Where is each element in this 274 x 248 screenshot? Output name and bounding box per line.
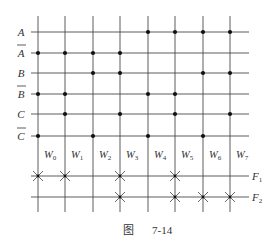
connection-dot — [201, 71, 205, 75]
word-line-label-w0: W0 — [44, 149, 57, 162]
caption-prefix: 图 — [123, 224, 134, 236]
input-label-c-bar: C — [17, 130, 25, 142]
connection-dot — [36, 134, 40, 138]
connection-dot — [228, 112, 232, 116]
input-label-c: C — [17, 108, 25, 120]
word-line-label-w3: W3 — [126, 149, 139, 162]
connection-dot — [91, 71, 95, 75]
connection-dot — [173, 30, 177, 34]
word-line-label-w6: W6 — [209, 149, 222, 162]
input-label-a: A — [17, 26, 25, 38]
connection-dot — [201, 134, 205, 138]
input-lines — [31, 32, 249, 136]
word-line-label-w1: W1 — [71, 149, 84, 162]
input-label-b-bar: B — [18, 88, 25, 100]
output-label-f2: F2 — [251, 191, 263, 205]
input-label-a-bar: A — [17, 47, 25, 59]
connection-dot — [201, 30, 205, 34]
output-lines — [31, 176, 249, 197]
connection-dot — [63, 112, 67, 116]
word-line-label-w7: W7 — [236, 149, 249, 162]
rom-array-svg: W0W1W2W3W4W5W6W7AABBCCF1F2 图 7-14 — [0, 0, 274, 248]
word-line-label-w4: W4 — [154, 149, 167, 162]
output-label-f1: F1 — [251, 170, 263, 184]
connection-dot — [228, 71, 232, 75]
input-label-b: B — [18, 67, 25, 79]
connection-dot — [36, 92, 40, 96]
connection-dot — [146, 92, 150, 96]
connection-dot — [63, 92, 67, 96]
connection-dot — [36, 51, 40, 55]
connection-dot — [118, 51, 122, 55]
connection-dot — [146, 30, 150, 34]
connection-dot — [91, 51, 95, 55]
word-line-label-w2: W2 — [99, 149, 112, 162]
connection-dot — [63, 51, 67, 55]
connection-dot — [91, 134, 95, 138]
connection-dot — [118, 71, 122, 75]
caption-number: 7-14 — [152, 224, 173, 236]
connection-dot — [173, 92, 177, 96]
word-line-label-w5: W5 — [181, 149, 194, 162]
connection-dot — [118, 112, 122, 116]
rom-diagram: W0W1W2W3W4W5W6W7AABBCCF1F2 图 7-14 — [0, 0, 274, 248]
connection-dot — [228, 30, 232, 34]
connection-dot — [173, 112, 177, 116]
connection-dot — [146, 134, 150, 138]
